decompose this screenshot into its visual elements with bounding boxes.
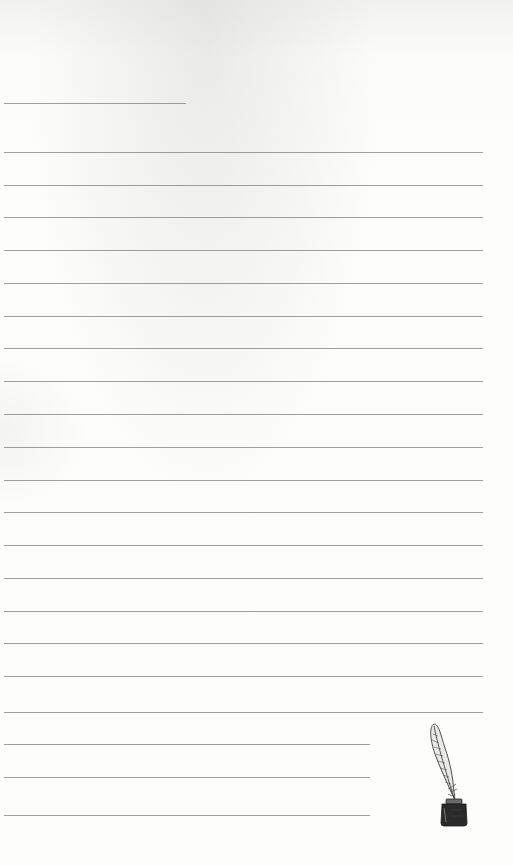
writing-line-full — [4, 152, 483, 153]
writing-line-short — [4, 815, 370, 816]
writing-line-full — [4, 545, 483, 546]
writing-line-header-short — [4, 103, 186, 104]
writing-line-full — [4, 185, 483, 186]
writing-line-full — [4, 414, 483, 415]
lined-paper-page — [0, 0, 513, 866]
writing-line-full — [4, 480, 483, 481]
writing-line-full — [4, 381, 483, 382]
writing-line-full — [4, 676, 483, 677]
quill-and-inkwell-icon — [426, 722, 476, 828]
writing-line-full — [4, 316, 483, 317]
writing-line-full — [4, 512, 483, 513]
writing-line-full — [4, 712, 483, 713]
writing-line-full — [4, 348, 483, 349]
writing-line-full — [4, 578, 483, 579]
writing-line-full — [4, 643, 483, 644]
writing-line-full — [4, 611, 483, 612]
writing-line-short — [4, 744, 370, 745]
writing-line-short — [4, 777, 370, 778]
writing-line-full — [4, 447, 483, 448]
writing-line-full — [4, 283, 483, 284]
writing-line-full — [4, 250, 483, 251]
writing-line-full — [4, 217, 483, 218]
